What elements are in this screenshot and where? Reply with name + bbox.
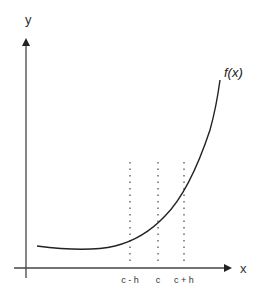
x-axis-label: x (240, 261, 247, 276)
curve-label: f(x) (224, 65, 243, 80)
tick-label-c-minus-h: c - h (121, 275, 139, 285)
tick-label-c-plus-h: c + h (174, 275, 194, 285)
y-axis-label: y (25, 12, 32, 27)
function-curve (37, 80, 220, 249)
tick-label-c: c (156, 275, 161, 285)
derivative-diagram: y x f(x) c - h c c + h (0, 0, 260, 295)
